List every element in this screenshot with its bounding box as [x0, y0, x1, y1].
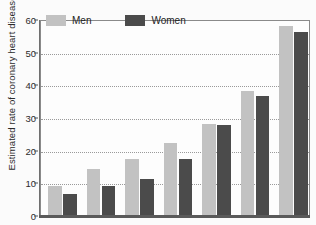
x-axis-baseline — [39, 215, 310, 218]
bar-women-6 — [256, 96, 270, 215]
legend-swatch-men-icon — [46, 15, 66, 26]
y-tick-mark — [34, 52, 38, 53]
bar-men-7 — [279, 26, 293, 215]
y-tick-mark — [34, 20, 38, 21]
y-tick-label: 50 — [14, 47, 36, 58]
y-tick-mark — [34, 183, 38, 184]
legend-label-men: Men — [72, 15, 91, 26]
bar-men-2 — [87, 169, 101, 215]
y-tick-mark — [34, 118, 38, 119]
legend-label-women: Women — [151, 15, 185, 26]
y-tick-mark — [34, 85, 38, 86]
y-tick-label: 0 — [14, 211, 36, 222]
bar-series-group — [41, 21, 309, 215]
y-tick-label: 60 — [14, 15, 36, 26]
bar-men-3 — [125, 159, 139, 215]
y-tick-mark — [34, 150, 38, 151]
bar-women-3 — [140, 179, 154, 215]
plot-area — [40, 20, 310, 216]
y-tick-mark — [34, 216, 38, 217]
bar-men-6 — [241, 91, 255, 215]
y-tick-label: 10 — [14, 178, 36, 189]
chart-figure: Estimated rate of coronary heart disease… — [0, 0, 316, 225]
chart-legend: Men Women — [46, 15, 186, 26]
bar-women-5 — [217, 125, 231, 215]
y-tick-label: 40 — [14, 80, 36, 91]
y-axis-tick-labels: 0102030405060 — [10, 0, 36, 225]
legend-item-women: Women — [125, 15, 185, 26]
bar-women-4 — [179, 159, 193, 215]
bar-women-1 — [63, 194, 77, 215]
legend-swatch-women-icon — [125, 15, 145, 26]
y-tick-label: 30 — [14, 113, 36, 124]
bar-men-1 — [48, 186, 62, 215]
bar-men-5 — [202, 124, 216, 215]
bar-women-7 — [294, 32, 308, 215]
bar-men-4 — [164, 143, 178, 215]
bar-women-2 — [102, 186, 116, 215]
y-tick-label: 20 — [14, 145, 36, 156]
legend-item-men: Men — [46, 15, 91, 26]
